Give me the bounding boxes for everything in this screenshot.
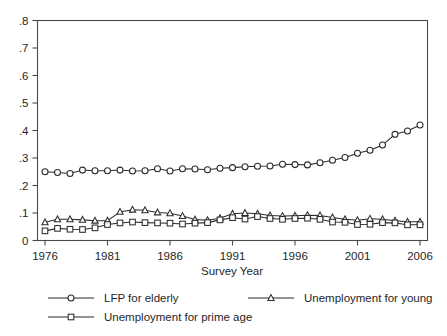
marker-square	[55, 226, 61, 232]
marker-square	[130, 219, 136, 225]
marker-circle	[130, 168, 136, 174]
marker-circle	[380, 142, 386, 148]
plot-border	[38, 21, 428, 241]
plot-frame	[38, 21, 428, 241]
marker-circle	[242, 164, 248, 170]
x-tick-label: 2006	[407, 250, 433, 262]
x-tick-label: 1986	[157, 250, 183, 262]
marker-circle	[117, 167, 123, 173]
marker-circle	[142, 168, 148, 174]
x-axis-title: Survey Year	[201, 265, 263, 277]
marker-square	[167, 220, 173, 226]
legend-entry[interactable]: Unemployment for prime age	[48, 311, 252, 323]
marker-circle	[167, 168, 173, 174]
marker-square	[255, 214, 261, 220]
x-tick-label: 1996	[282, 250, 308, 262]
marker-circle	[230, 165, 236, 171]
marker-square	[292, 216, 298, 222]
y-tick-label: .2	[19, 180, 29, 192]
marker-circle	[255, 163, 261, 169]
marker-circle	[80, 167, 86, 173]
chart-figure: 0.1.2.3.4.5.6.7.8 1976198119861991199620…	[0, 0, 447, 336]
marker-circle	[217, 165, 223, 171]
marker-circle	[155, 166, 161, 172]
marker-circle	[355, 150, 361, 156]
y-tick-label: .5	[19, 97, 29, 109]
x-tick-label: 2001	[345, 250, 371, 262]
marker-circle	[342, 154, 348, 160]
legend-label: Unemployment for young	[304, 292, 432, 304]
y-tick-label: .4	[19, 125, 29, 137]
marker-square	[267, 216, 273, 222]
marker-circle	[42, 169, 48, 175]
marker-square	[342, 220, 348, 226]
marker-square	[142, 220, 148, 226]
marker-square	[230, 215, 236, 221]
marker-square	[392, 220, 398, 226]
marker-circle	[405, 128, 411, 134]
legend-label: LFP for elderly	[104, 292, 179, 304]
y-tick-label: 0	[22, 235, 28, 247]
x-tick-label: 1976	[32, 250, 58, 262]
marker-square	[217, 217, 223, 223]
x-axis: 1976198119861991199620012006	[32, 241, 433, 262]
marker-square	[205, 220, 211, 226]
series-container	[42, 122, 423, 234]
x-tick-label: 1981	[95, 250, 121, 262]
series-square	[42, 214, 423, 234]
marker-square	[68, 314, 74, 320]
marker-square	[417, 222, 423, 228]
marker-circle	[205, 167, 211, 173]
marker-circle	[67, 170, 73, 176]
marker-square	[42, 228, 48, 234]
marker-square	[117, 220, 123, 226]
y-tick-label: .1	[19, 207, 29, 219]
marker-square	[317, 217, 323, 223]
marker-triangle	[129, 206, 135, 212]
y-axis: 0.1.2.3.4.5.6.7.8	[19, 15, 38, 247]
legend-label: Unemployment for prime age	[104, 311, 252, 323]
y-tick-label: .8	[19, 15, 29, 27]
marker-triangle	[367, 215, 373, 221]
marker-square	[180, 221, 186, 227]
marker-square	[67, 226, 73, 232]
marker-circle	[92, 168, 98, 174]
marker-square	[92, 225, 98, 231]
marker-square	[330, 219, 336, 225]
marker-circle	[330, 157, 336, 163]
marker-circle	[417, 122, 423, 128]
legend-entry[interactable]: LFP for elderly	[48, 292, 179, 304]
marker-circle	[105, 168, 111, 174]
marker-triangle	[242, 210, 248, 216]
series-circle	[42, 122, 423, 176]
marker-square	[305, 215, 311, 221]
marker-circle	[68, 295, 74, 301]
marker-circle	[292, 162, 298, 168]
y-tick-label: .7	[19, 42, 29, 54]
marker-circle	[367, 147, 373, 153]
marker-square	[405, 222, 411, 228]
x-tick-label: 1991	[220, 250, 246, 262]
chart-legend: LFP for elderlyUnemployment for youngUne…	[48, 292, 432, 323]
chart-canvas: 0.1.2.3.4.5.6.7.8 1976198119861991199620…	[0, 0, 447, 336]
marker-circle	[267, 163, 273, 169]
marker-circle	[55, 170, 61, 176]
marker-circle	[192, 166, 198, 172]
marker-square	[380, 220, 386, 226]
marker-square	[242, 216, 248, 222]
marker-circle	[392, 131, 398, 137]
y-tick-label: .6	[19, 70, 29, 82]
marker-square	[192, 220, 198, 226]
marker-square	[367, 221, 373, 227]
marker-circle	[180, 166, 186, 172]
marker-square	[155, 220, 161, 226]
marker-circle	[305, 162, 311, 168]
marker-square	[355, 222, 361, 228]
marker-circle	[280, 161, 286, 167]
marker-circle	[317, 160, 323, 166]
y-tick-label: .3	[19, 152, 29, 164]
marker-square	[80, 227, 86, 233]
marker-square	[105, 222, 111, 228]
marker-square	[280, 217, 286, 223]
legend-entry[interactable]: Unemployment for young	[248, 292, 432, 304]
